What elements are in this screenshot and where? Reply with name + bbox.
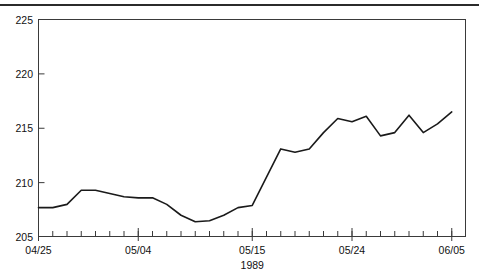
- y-tick-label: 210: [3, 178, 33, 189]
- y-tick-label: 220: [3, 69, 33, 80]
- y-tick-marks: [39, 74, 45, 183]
- x-tick-label: 06/05: [430, 245, 474, 256]
- x-axis-title: 1989: [222, 260, 282, 271]
- y-tick-label: 215: [3, 123, 33, 134]
- x-tick-label: 05/04: [116, 245, 160, 256]
- chart-page: 205210215220225 04/2505/0405/1505/2406/0…: [0, 0, 479, 279]
- x-tick-marks: [39, 228, 452, 241]
- x-tick-label: 04/25: [17, 245, 61, 256]
- series-layer: [0, 0, 479, 279]
- line-chart: 205210215220225 04/2505/0405/1505/2406/0…: [0, 0, 479, 279]
- x-tick-label: 05/24: [330, 245, 374, 256]
- y-tick-label: 225: [3, 15, 33, 26]
- data-line-value: [39, 112, 452, 222]
- y-tick-label: 205: [3, 232, 33, 243]
- x-tick-label: 05/15: [230, 245, 274, 256]
